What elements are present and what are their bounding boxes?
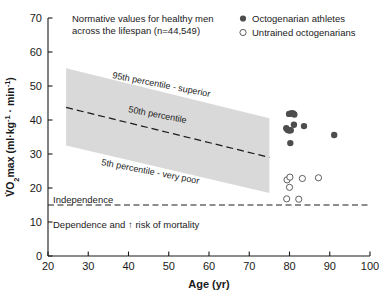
data-point-untrained: [286, 184, 292, 190]
legend-open-circle-icon: [240, 29, 246, 35]
chart-svg: 2030405060708090100010203040506070 95th …: [0, 0, 387, 302]
data-point-athlete: [288, 127, 294, 133]
x-tick-label: 80: [283, 260, 295, 272]
x-axis-title: Age (yr): [188, 278, 230, 290]
svg-text:V̇O2max (ml·kg-1 · min-1): V̇O2max (ml·kg-1 · min-1): [3, 77, 21, 197]
data-point-untrained: [296, 196, 302, 202]
data-point-athlete: [291, 122, 297, 128]
y-tick-label: 20: [30, 182, 42, 194]
x-tick-label: 50: [163, 260, 175, 272]
independence-label: Independence: [53, 194, 113, 205]
data-points: [283, 110, 337, 202]
data-point-athlete: [331, 132, 337, 138]
y-tick-label: 30: [30, 148, 42, 160]
data-point-untrained: [284, 196, 290, 202]
y-axis-title: V̇O2max (ml·kg-1 · min-1): [3, 77, 21, 197]
y-tick-label: 50: [30, 80, 42, 92]
legend-filled-circle-icon: [240, 15, 246, 21]
x-tick-label: 60: [203, 260, 215, 272]
x-tick-label: 20: [42, 260, 54, 272]
data-point-athlete: [301, 123, 307, 129]
x-tick-label: 30: [82, 260, 94, 272]
vo2max-figure: 2030405060708090100010203040506070 95th …: [0, 0, 387, 302]
legend-label-athletes: Octogenarian athletes: [252, 13, 345, 24]
normative-note-line2: across the lifespan (n=44,549): [72, 25, 200, 36]
data-point-untrained: [315, 175, 321, 181]
legend-label-untrained: Untrained octogenarians: [252, 27, 356, 38]
x-tick-label: 40: [122, 260, 134, 272]
y-tick-label: 10: [30, 216, 42, 228]
y-tick-label: 40: [30, 114, 42, 126]
dependence-label: Dependence and ↑ risk of mortality: [53, 219, 200, 230]
data-point-untrained: [287, 174, 293, 180]
data-point-athlete: [287, 140, 293, 146]
y-tick-label: 0: [36, 250, 42, 262]
y-tick-label: 60: [30, 46, 42, 58]
x-tick-label: 70: [243, 260, 255, 272]
legend: Octogenarian athletes Untrained octogena…: [240, 13, 356, 38]
y-tick-label: 70: [30, 12, 42, 24]
data-point-athlete: [291, 111, 297, 117]
normative-note-line1: Normative values for healthy men: [72, 13, 214, 24]
x-tick-label: 90: [324, 260, 336, 272]
data-point-untrained: [299, 175, 305, 181]
x-tick-label: 100: [361, 260, 379, 272]
